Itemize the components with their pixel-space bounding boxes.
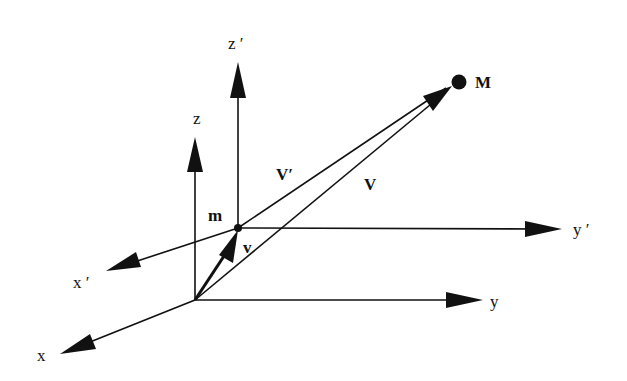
coordinate-frames-diagram: z z ′ y y ′ x x ′ m M v V′ V [0, 0, 627, 381]
y-axis-arrowhead-icon [446, 292, 483, 308]
vector-V [195, 90, 448, 300]
label-z-prime: z ′ [228, 34, 244, 53]
z-prime-axis-arrowhead-icon [230, 62, 246, 98]
label-vector-V: V [364, 175, 377, 194]
label-point-M: M [475, 73, 491, 92]
x-axis-arrowhead-icon [60, 334, 96, 354]
vector-V-prime [238, 88, 446, 228]
label-y-prime: y ′ [573, 220, 589, 239]
label-x: x [37, 346, 46, 365]
vector-v [195, 250, 228, 300]
vectors [195, 86, 452, 300]
z-axis-arrowhead-icon [187, 137, 203, 172]
label-vector-V-prime: V′ [276, 165, 293, 184]
label-y: y [490, 292, 499, 311]
y-prime-axis-arrowhead-icon [525, 221, 562, 237]
moving-frame [106, 62, 562, 271]
y-prime-axis [238, 228, 548, 229]
point-M [452, 75, 467, 90]
x-prime-axis-arrowhead-icon [106, 252, 141, 271]
fixed-frame [60, 137, 483, 354]
label-point-m: m [208, 206, 222, 225]
label-z: z [193, 109, 201, 128]
x-axis [75, 300, 195, 348]
point-m [234, 224, 242, 232]
label-vector-v: v [243, 238, 252, 257]
label-x-prime: x ′ [73, 273, 89, 292]
